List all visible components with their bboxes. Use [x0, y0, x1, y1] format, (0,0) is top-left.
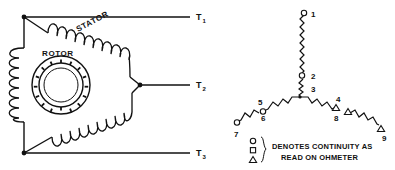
wye-branch-right: 4 8 9 — [301, 95, 387, 143]
wye-lead-5-number: 5 — [258, 98, 263, 107]
wye-coil-8-9 — [350, 110, 379, 125]
terminal-t1-sub: 1 — [203, 18, 207, 24]
wye-lead-2-number: 2 — [311, 72, 316, 81]
legend-circle-icon — [250, 138, 255, 143]
rotor-inner-circle — [44, 68, 78, 102]
wye-lead-3-number: 3 — [311, 85, 316, 94]
wye-lead-9-triangle-marker — [377, 126, 384, 132]
legend-brace-icon — [261, 137, 266, 162]
delta-side-upper-start — [24, 17, 48, 33]
legend-group: DENOTES CONTINUITY AS READ ON OHMETER — [249, 137, 372, 163]
stator-label: STATOR — [75, 9, 110, 33]
wye-lead-7-number: 7 — [234, 130, 239, 139]
rotor-mid-circle — [39, 63, 83, 107]
legend-line-2: READ ON OHMETER — [281, 153, 359, 162]
rotor-label: ROTOR — [42, 49, 74, 58]
legend-square-icon — [250, 148, 255, 153]
motor-winding-diagram: STATOR ROTOR T 1 T 2 T 3 — [0, 0, 395, 170]
rotor-bar-dots — [34, 60, 88, 113]
wye-coil-center-6 — [266, 97, 299, 110]
terminal-label-t2: T 2 — [196, 80, 207, 92]
terminal-t3-sub: 3 — [203, 154, 207, 160]
wye-lead-8-triangle-marker — [344, 109, 351, 115]
wye-branch-top: 1 2 3 — [299, 10, 316, 97]
wye-lead-6-number: 6 — [261, 114, 266, 123]
rotor-outer-circle — [32, 56, 90, 114]
wye-lead-2-circle-marker — [299, 73, 304, 78]
diagram-canvas: STATOR ROTOR T 1 T 2 T 3 — [0, 0, 395, 170]
wye-lead-4-number: 4 — [336, 95, 341, 104]
wye-lead-9-number: 9 — [382, 134, 387, 143]
terminal-label-t1: T 1 — [196, 12, 207, 24]
delta-side-upper-end — [130, 77, 140, 85]
winding-coil-left — [9, 48, 24, 122]
wye-branch-left: 5 6 7 — [234, 97, 299, 139]
wye-coil-1-2 — [300, 15, 304, 73]
wye-coil-3-center — [299, 79, 303, 97]
rotor-assembly — [32, 56, 90, 114]
terminal-t2-base: T — [196, 80, 202, 90]
wye-lead-8-number: 8 — [334, 114, 339, 123]
wye-lead-1-circle-marker — [301, 10, 306, 15]
delta-stator-rotor-group: STATOR ROTOR T 1 T 2 T 3 — [9, 9, 206, 159]
legend-triangle-icon — [249, 157, 256, 163]
terminal-t1-base: T — [196, 12, 202, 22]
wye-lead-1-number: 1 — [311, 10, 316, 19]
winding-coil-lower — [52, 93, 132, 146]
terminal-t3-base: T — [196, 148, 202, 158]
legend-line-1: DENOTES CONTINUITY AS — [272, 142, 372, 151]
wye-lead-7-circle-marker — [234, 120, 239, 125]
delta-side-lower-end — [132, 85, 140, 93]
wye-lead-4-triangle-marker — [332, 105, 339, 111]
terminal-t2-sub: 2 — [203, 86, 207, 92]
wye-coil-center-4 — [301, 97, 336, 109]
terminal-label-t3: T 3 — [196, 148, 207, 160]
delta-side-lower-start — [24, 137, 52, 153]
wye-coil-6-7 — [239, 110, 259, 121]
wye-diagram-group: 1 2 3 5 6 7 — [234, 10, 387, 163]
